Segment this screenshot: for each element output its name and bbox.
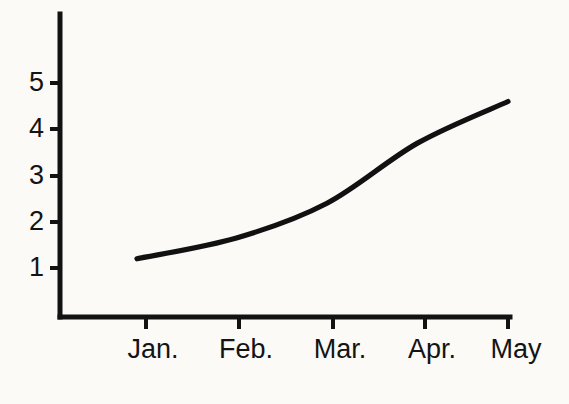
x-tick-label-jan: Jan. <box>127 334 178 364</box>
y-tick-label-4: 4 <box>29 113 44 143</box>
x-tick-label-may: May <box>490 334 542 364</box>
y-tick-label-5: 5 <box>29 67 44 97</box>
y-tick-label-3: 3 <box>29 160 44 190</box>
chart-page: 5 4 3 2 1 Jan. Feb. Mar. Apr. May <box>0 0 569 404</box>
line-chart: 5 4 3 2 1 Jan. Feb. Mar. Apr. May <box>0 0 569 404</box>
x-tick-label-mar: Mar. <box>314 334 367 364</box>
data-series-line <box>137 102 508 259</box>
x-tick-label-apr: Apr. <box>408 334 456 364</box>
y-tick-label-2: 2 <box>29 206 44 236</box>
x-tick-label-feb: Feb. <box>219 334 273 364</box>
y-tick-label-1: 1 <box>29 252 44 282</box>
